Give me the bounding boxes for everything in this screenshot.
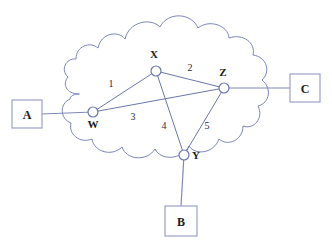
- node-label-w: W: [88, 118, 99, 130]
- host-label-c: C: [301, 82, 310, 96]
- node-label-z: Z: [219, 66, 226, 78]
- link-label-4: 4: [162, 120, 167, 131]
- node-x[interactable]: [151, 66, 161, 76]
- network-diagram: W X Y Z 1 2 3 4 5 A C B: [0, 0, 332, 245]
- diagram-canvas: W X Y Z 1 2 3 4 5 A C B: [0, 0, 332, 245]
- link-label-5: 5: [205, 120, 210, 131]
- host-label-a: A: [23, 108, 32, 122]
- node-w[interactable]: [88, 107, 98, 117]
- network-cloud-shape: [62, 16, 268, 158]
- link-label-3: 3: [131, 111, 136, 122]
- node-label-y: Y: [192, 149, 200, 161]
- node-z[interactable]: [219, 83, 229, 93]
- link-label-2: 2: [188, 62, 193, 73]
- link-b-to-y: [181, 155, 184, 206]
- node-y[interactable]: [179, 150, 189, 160]
- node-label-x: X: [150, 48, 158, 60]
- host-label-b: B: [177, 215, 185, 229]
- link-label-1: 1: [109, 78, 114, 89]
